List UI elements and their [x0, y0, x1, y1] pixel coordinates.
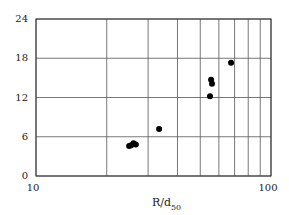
x-axis-label-main: R/d	[152, 196, 171, 209]
x-axis-label-sub: 50	[171, 203, 181, 212]
x-tick-label: 10	[27, 182, 40, 193]
scatter-chart: 06121824 10100 R/d50	[0, 0, 289, 215]
data-point	[133, 142, 139, 148]
y-tick-label: 12	[15, 92, 28, 103]
y-axis-ticks: 06121824	[15, 13, 28, 181]
y-tick-label: 6	[22, 131, 28, 142]
x-axis-ticks: 10100	[27, 182, 278, 193]
y-tick-label: 0	[22, 170, 28, 181]
y-tick-label: 24	[15, 13, 28, 24]
data-point	[209, 81, 215, 87]
y-tick-label: 18	[15, 52, 28, 63]
x-tick-label: 100	[258, 182, 277, 193]
x-axis-label: R/d50	[152, 196, 181, 212]
data-point	[207, 93, 213, 99]
data-point	[156, 126, 162, 132]
data-point	[228, 60, 234, 66]
data-points	[126, 60, 234, 149]
grid	[36, 19, 271, 176]
